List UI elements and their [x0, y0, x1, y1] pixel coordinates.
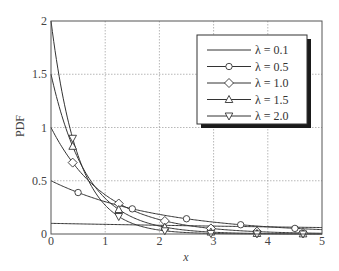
x-tick-label: 0	[48, 234, 54, 248]
legend: λ = 0.1λ = 0.5λ = 1.0λ = 1.5λ = 2.0	[197, 35, 311, 128]
legend-label: λ = 1.5	[255, 93, 289, 107]
triangle-down-marker	[115, 214, 123, 221]
x-tick-label: 1	[102, 234, 108, 248]
y-tick-label: 0	[41, 227, 47, 241]
circle-marker	[292, 225, 298, 231]
pdf-chart: 012345 00.511.52 x PDF λ = 0.1λ = 0.5λ =…	[0, 0, 339, 271]
x-tick-labels: 012345	[48, 234, 325, 248]
x-tick-label: 5	[319, 234, 325, 248]
legend-label: λ = 1.0	[255, 76, 289, 90]
circle-marker	[129, 206, 135, 212]
y-axis-label: PDF	[13, 115, 27, 137]
legend-label: λ = 0.1	[255, 43, 289, 57]
x-axis-label: x	[182, 250, 189, 264]
circle-marker	[226, 63, 232, 69]
y-tick-labels: 00.511.52	[32, 14, 47, 241]
y-tick-label: 1	[41, 121, 47, 135]
markers	[68, 135, 307, 238]
circle-marker	[75, 189, 81, 195]
y-tick-label: 1.5	[32, 67, 47, 81]
legend-label: λ = 0.5	[255, 60, 289, 74]
y-tick-label: 0.5	[32, 174, 47, 188]
legend-label: λ = 2.0	[255, 109, 289, 123]
x-tick-label: 4	[265, 234, 271, 248]
diamond-marker	[68, 158, 77, 167]
y-tick-label: 2	[41, 14, 47, 28]
circle-marker	[183, 216, 189, 222]
circle-marker	[238, 222, 244, 228]
legend-box	[197, 35, 307, 124]
x-tick-label: 3	[211, 234, 217, 248]
x-tick-label: 2	[156, 234, 162, 248]
